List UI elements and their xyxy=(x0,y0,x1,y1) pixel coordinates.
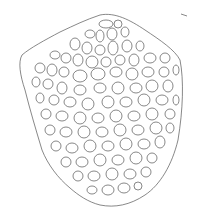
outer-boundary xyxy=(20,14,183,206)
reticulated-cell-outline xyxy=(0,0,199,214)
cells xyxy=(32,20,179,195)
line-drawing xyxy=(0,0,199,214)
